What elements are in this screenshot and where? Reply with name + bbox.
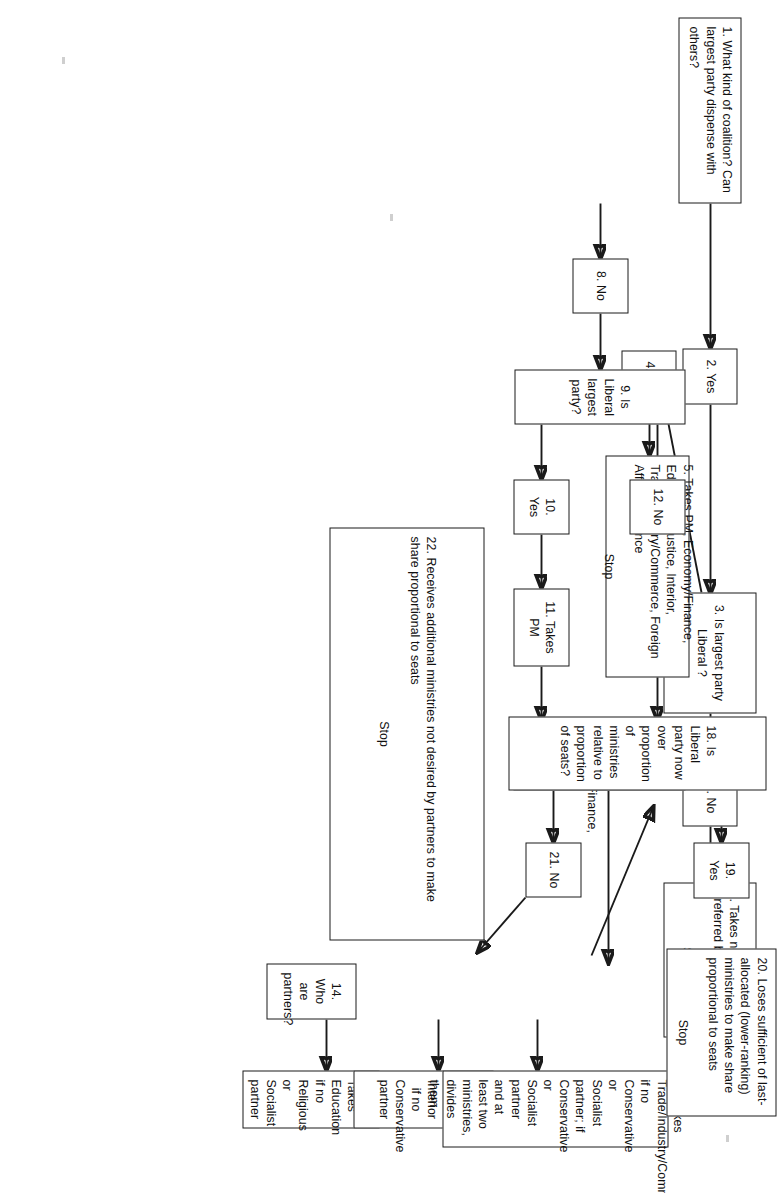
flow-node-11[interactable]: 11. Takes PM <box>513 588 569 666</box>
flow-node-8-label: 8. No <box>592 267 608 304</box>
flow-node-22[interactable]: 22. Receives additional ministries not d… <box>329 527 484 940</box>
flow-node-8[interactable]: 8. No <box>572 258 628 313</box>
edge-17-to-18 <box>591 806 653 955</box>
flow-node-1-label: 1. What kind of coalition? Can largest p… <box>685 26 734 194</box>
page-canvas: 1. What kind of coalition? Can largest p… <box>0 0 781 1193</box>
flow-node-22-label: 22. Receives additional ministries not d… <box>405 536 437 931</box>
flow-node-20-stop: Stop <box>673 957 689 1107</box>
flowchart-canvas: 1. What kind of coalition? Can largest p… <box>0 0 781 1193</box>
flow-node-19[interactable]: 19. Yes <box>693 842 749 898</box>
flow-node-14-label: 14. Who are partners? <box>279 972 344 1010</box>
flow-node-9-label: 9. Is Liberal largest party? <box>567 378 632 415</box>
flow-node-2[interactable]: 2. Yes <box>682 348 737 404</box>
flow-node-18[interactable]: 18. Is Liberal party now over proportion… <box>508 716 766 790</box>
flow-node-1[interactable]: 1. What kind of coalition? Can largest p… <box>678 17 741 203</box>
flow-node-9[interactable]: 9. Is Liberal largest party? <box>514 369 685 424</box>
flow-node-21[interactable]: 21. No <box>525 842 581 897</box>
flow-node-20[interactable]: 20. Loses sufficient of last-allocated (… <box>666 948 776 1116</box>
flow-node-21-label: 21. No <box>545 851 561 888</box>
flow-node-12[interactable]: 12. No <box>629 479 685 534</box>
flow-node-19-label: 19. Yes <box>705 851 737 889</box>
flow-node-17[interactable]: 17. Takes Trade/Industry/Commerce if no … <box>442 1070 668 1147</box>
flow-node-12-label: 12. No <box>649 488 665 525</box>
flow-node-5-stop: Stop <box>599 464 615 668</box>
flow-node-2-label: 2. Yes <box>701 357 717 395</box>
flow-node-14[interactable]: 14. Who are partners? <box>266 963 356 1019</box>
flow-node-10[interactable]: 10. Yes <box>513 479 569 534</box>
flow-node-3-label: 3. Is largest party Liberal ? <box>693 601 725 704</box>
flow-node-22-stop: Stop <box>375 536 391 931</box>
flow-node-18-label: 18. Is Liberal party now over proportion… <box>556 725 718 781</box>
flow-node-20-label: 20. Loses sufficient of last-allocated (… <box>704 957 769 1107</box>
flow-node-11-label: 11. Takes PM <box>525 597 557 657</box>
flow-node-10-label: 10. Yes <box>525 488 557 525</box>
flow-node-17-label: 17. Takes Trade/Industry/Commerce if no … <box>425 1079 685 1138</box>
